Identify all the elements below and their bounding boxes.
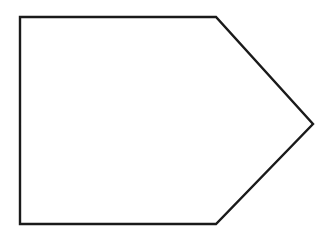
pentagon-shape-svg: Pentagon outline shape resembling an arr… <box>0 0 335 242</box>
pentagon-arrow-outline <box>20 17 313 224</box>
diagram-canvas: Pentagon outline shape resembling an arr… <box>0 0 335 242</box>
